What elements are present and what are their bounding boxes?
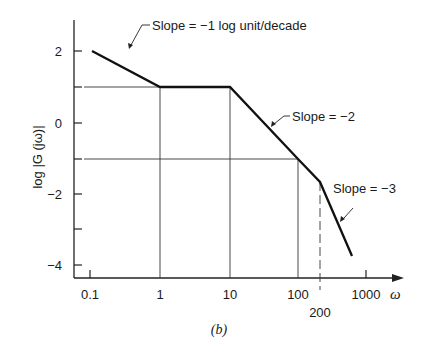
x-tick-label: 100	[287, 287, 309, 302]
y-ticks	[74, 51, 82, 265]
x-axis-label: ω	[390, 286, 401, 302]
magnitude-curve	[92, 51, 352, 256]
annotation-arrow-icon	[128, 43, 133, 49]
annotation-leader	[344, 208, 353, 218]
x-tick-label: 1	[156, 287, 163, 302]
slope-annotation-3: Slope = −3	[333, 181, 396, 196]
bode-plot: 2 0 −2 −4 0.1 1 10 100 200 1000 ω log |G…	[0, 0, 438, 360]
x-axis-arrow-icon	[392, 274, 404, 282]
annotation-arrow-icon	[340, 216, 345, 222]
x-tick-label: 200	[309, 305, 331, 320]
y-tick-label: 2	[55, 44, 62, 59]
x-tick-label: 0.1	[81, 287, 99, 302]
x-tick-label: 1000	[352, 287, 381, 302]
y-axis-label: log |G (jω)|	[30, 125, 45, 188]
y-tick-label: 0	[55, 116, 62, 131]
y-tick-label: −4	[47, 258, 62, 273]
annotation-arrow-icon	[271, 121, 276, 127]
y-tick-label: −2	[47, 187, 62, 202]
annotation-leader	[131, 25, 150, 45]
annotation-leader	[274, 116, 290, 124]
slope-annotation-2: Slope = −2	[292, 109, 355, 124]
x-tick-label: 10	[223, 287, 237, 302]
x-ticks	[90, 270, 366, 278]
figure-label: (b)	[211, 322, 228, 338]
reference-lines	[84, 87, 320, 290]
slope-annotation-1: Slope = −1 log unit/decade	[152, 18, 307, 33]
